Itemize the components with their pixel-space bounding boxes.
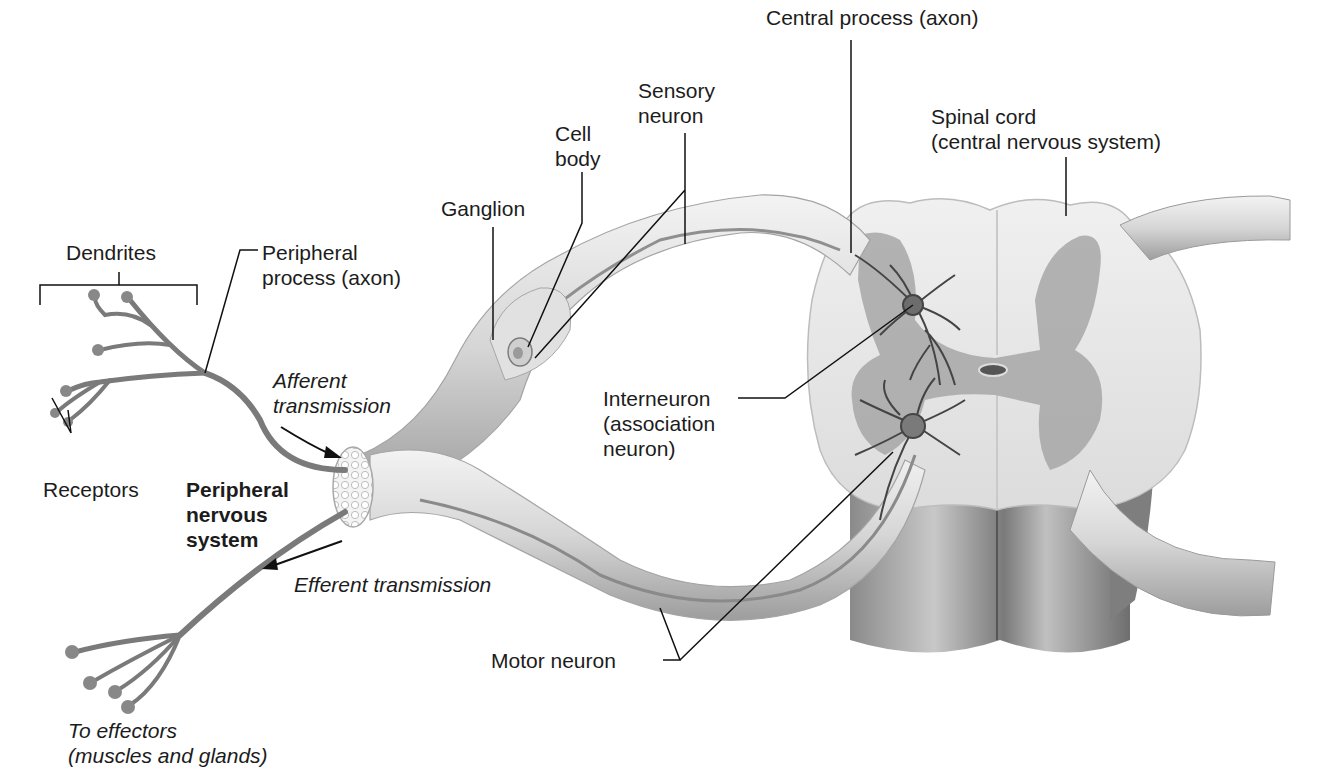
label-central-process: Central process (axon) — [766, 5, 978, 30]
label-spinal-cord: Spinal cord (central nervous system) — [931, 104, 1161, 154]
afferent-arrow-head — [324, 446, 342, 458]
label-efferent-transmission: Efferent transmission — [294, 572, 491, 597]
label-afferent-transmission: Afferent transmission — [273, 368, 391, 418]
label-interneuron: Interneuron (association neuron) — [603, 386, 715, 461]
label-peripheral-process: Peripheral process (axon) — [262, 240, 401, 290]
label-receptors: Receptors — [43, 477, 139, 502]
label-dendrites: Dendrites — [66, 240, 156, 265]
label-ganglion: Ganglion — [441, 196, 525, 221]
label-to-effectors: To effectors (muscles and glands) — [68, 718, 268, 768]
label-sensory-neuron: Sensory neuron — [638, 78, 715, 128]
label-cell-body: Cell body — [555, 121, 601, 171]
label-motor-neuron: Motor neuron — [491, 648, 616, 673]
label-peripheral-nervous-system: Peripheral nervous system — [186, 477, 289, 552]
